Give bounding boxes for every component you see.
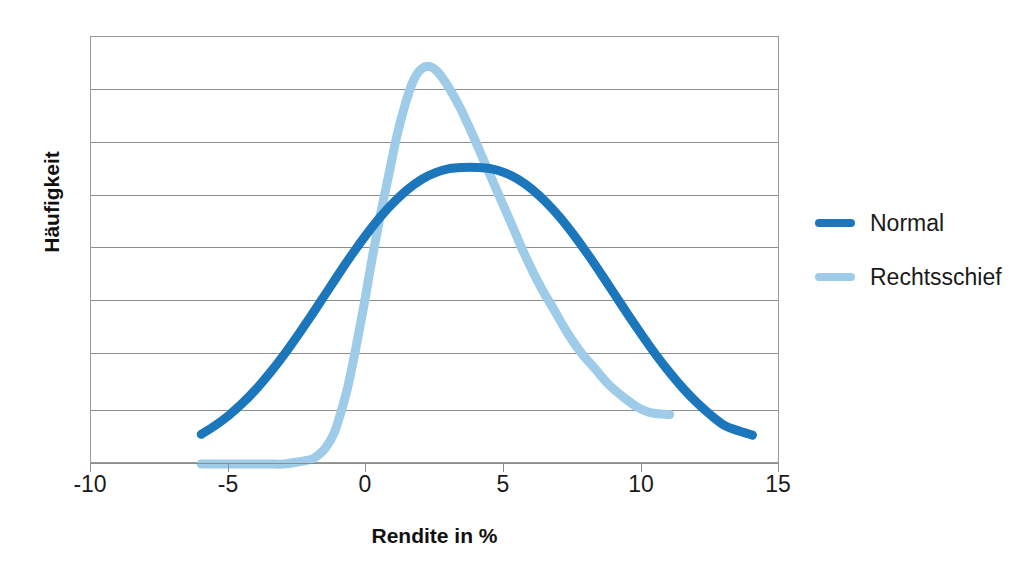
chart-legend: Normal Rechtsschief bbox=[815, 196, 1020, 304]
x-axis-line bbox=[90, 463, 779, 464]
x-axis-tick-label: 10 bbox=[628, 472, 654, 497]
series-plot bbox=[91, 37, 780, 464]
x-axis-tick-label: 0 bbox=[359, 472, 372, 497]
legend-item-rechtsschief: Rechtsschief bbox=[815, 250, 1020, 304]
x-axis-tick-label: 5 bbox=[497, 472, 510, 497]
legend-color-swatch bbox=[815, 219, 855, 227]
x-axis-tick-label: 15 bbox=[765, 472, 791, 497]
legend-item-normal: Normal bbox=[815, 196, 1020, 250]
legend-item-label: Normal bbox=[870, 210, 944, 237]
y-axis-title: Häufigkeit bbox=[40, 102, 64, 302]
legend-color-swatch bbox=[815, 273, 855, 281]
x-axis-tick-label: -10 bbox=[73, 472, 106, 497]
x-axis-tick-label: -5 bbox=[218, 472, 238, 497]
series-line-rechtsschief bbox=[201, 167, 752, 435]
legend-item-label: Rechtsschief bbox=[870, 264, 1002, 291]
chart-container: -10 -5 0 5 10 15 Rendite in % Häufigkeit… bbox=[0, 0, 1027, 588]
plot-area bbox=[90, 36, 779, 463]
x-axis-title: Rendite in % bbox=[90, 524, 779, 548]
